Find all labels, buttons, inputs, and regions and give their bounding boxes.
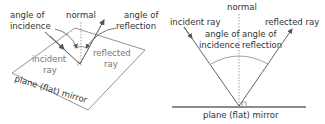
right-side-view-diagram: normal incident ray reflected ray angle … [170,2,319,120]
label-incident-ray-1: incident [32,54,67,64]
label-angle-reflection-2: reflection [242,40,282,50]
label-angle-incidence-2: incidence [10,21,51,31]
label-angle-reflection-1: angle of [124,10,159,20]
label-reflected-ray-1: reflected [93,48,131,58]
label-incident-ray-2: ray [43,65,57,75]
angle-arc [211,56,268,64]
reflection-diagram: angle of incidence normal angle of refle… [0,0,325,124]
left-perspective-diagram: angle of incidence normal angle of refle… [10,10,159,110]
label-mirror: plane (flat) mirror [203,110,279,120]
label-normal: normal [66,10,96,20]
label-angle-reflection-1: angle of [242,29,277,39]
label-angle-incidence-1: angle of [10,10,45,20]
label-reflected-ray: reflected ray [265,17,319,27]
label-mirror: plane (flat) mirror [13,73,89,105]
label-normal: normal [227,2,257,12]
label-angle-reflection-2: reflection [116,21,156,31]
label-angle-incidence-1: angle of [205,29,240,39]
label-reflected-ray-2: ray [104,59,118,69]
label-angle-incidence-2: incidence [199,40,240,50]
label-incident-ray: incident ray [170,17,221,27]
